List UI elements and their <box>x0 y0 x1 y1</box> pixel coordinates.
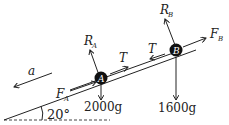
force-a-arrow <box>70 82 96 91</box>
block-b-label: B <box>172 46 180 56</box>
inclined-plane-diagram: 20° a F A R A 2000g T T A B R B F B 1600… <box>0 0 229 125</box>
force-b-sub: B <box>217 35 223 43</box>
force-a-sub: A <box>63 95 69 103</box>
angle-label: 20° <box>47 107 70 122</box>
angle-arc <box>41 106 43 120</box>
reaction-a-sub: A <box>91 42 97 50</box>
tension-b-label: T <box>148 42 157 56</box>
weight-a-label: 2000g <box>84 100 123 114</box>
block-a-label: A <box>97 74 105 84</box>
acceleration-label: a <box>28 64 35 78</box>
reaction-b-sub: B <box>167 11 173 19</box>
tension-a-label: T <box>119 51 128 65</box>
weight-b-label: 1600g <box>158 101 197 115</box>
force-b-arrow <box>183 38 206 47</box>
block-b: B <box>170 44 183 57</box>
reaction-b-arrow <box>165 19 175 45</box>
block-a: A <box>95 72 108 85</box>
